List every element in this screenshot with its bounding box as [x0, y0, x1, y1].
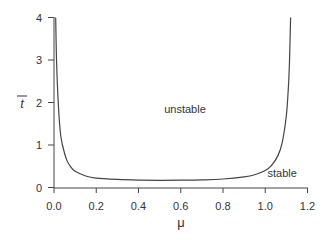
y-tick-label: 3 [36, 54, 42, 66]
svg-text:t: t [20, 96, 25, 111]
y-axis-label: t [17, 96, 27, 111]
y-tick-label: 0 [36, 182, 42, 194]
x-axis: 0.00.20.40.60.81.01.2 [46, 188, 315, 212]
x-tick-label: 1.2 [300, 200, 315, 212]
y-tick-label: 4 [36, 12, 42, 24]
x-axis-label: μ [177, 215, 185, 230]
y-tick-label: 2 [36, 97, 42, 109]
x-tick-label: 0.0 [46, 200, 61, 212]
x-tick-label: 0.6 [173, 200, 188, 212]
annotation-stable: stable [267, 167, 296, 179]
y-axis: 01234 [36, 12, 54, 194]
chart: 01234 0.00.20.40.60.81.01.2 μ t unstable… [0, 0, 331, 248]
x-tick-label: 0.8 [215, 200, 230, 212]
x-tick-label: 1.0 [258, 200, 273, 212]
stability-curve [56, 18, 291, 181]
y-tick-label: 1 [36, 139, 42, 151]
annotation-unstable: unstable [164, 103, 206, 115]
x-tick-label: 0.2 [89, 200, 104, 212]
x-tick-label: 0.4 [131, 200, 146, 212]
